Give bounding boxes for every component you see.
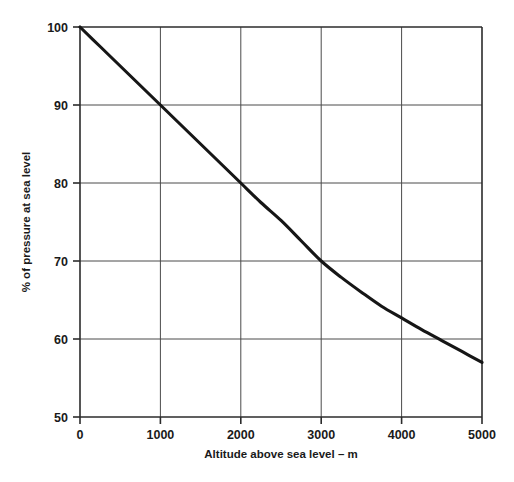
y-axis-tick-labels: 5060708090100 [47,21,68,425]
x-tick-label-3000: 3000 [307,428,335,442]
x-axis-tick-labels: 010002000300040005000 [77,428,496,442]
pressure-altitude-line-chart: 5060708090100 010002000300040005000 Alti… [0,0,514,482]
y-axis-title: % of pressure at sea level [20,152,32,293]
y-tick-label-60: 60 [54,333,68,347]
x-tick-label-5000: 5000 [468,428,496,442]
y-tick-label-90: 90 [54,99,68,113]
y-tick-label-70: 70 [54,255,68,269]
x-tick-label-4000: 4000 [388,428,416,442]
x-axis-tick-marks [80,417,482,424]
x-tick-label-2000: 2000 [227,428,255,442]
y-tick-label-80: 80 [54,177,68,191]
y-axis-tick-marks [73,27,80,417]
chart-figure: 5060708090100 010002000300040005000 Alti… [0,0,514,482]
x-axis-title: Altitude above sea level – m [204,448,357,460]
x-tick-label-0: 0 [77,428,84,442]
x-tick-label-1000: 1000 [146,428,174,442]
y-tick-label-100: 100 [47,21,68,35]
y-tick-label-50: 50 [54,411,68,425]
